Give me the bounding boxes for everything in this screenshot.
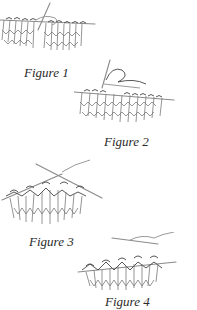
figure-1-illustration [0,0,100,56]
figure-3-illustration [0,156,104,228]
figure-4-illustration [70,232,180,292]
figure-4-caption: Figure 4 [105,295,150,308]
figure-2-caption: Figure 2 [104,135,149,148]
figure-3-caption: Figure 3 [29,235,74,248]
figure-1-caption: Figure 1 [24,66,69,79]
figure-2-illustration [74,58,176,128]
